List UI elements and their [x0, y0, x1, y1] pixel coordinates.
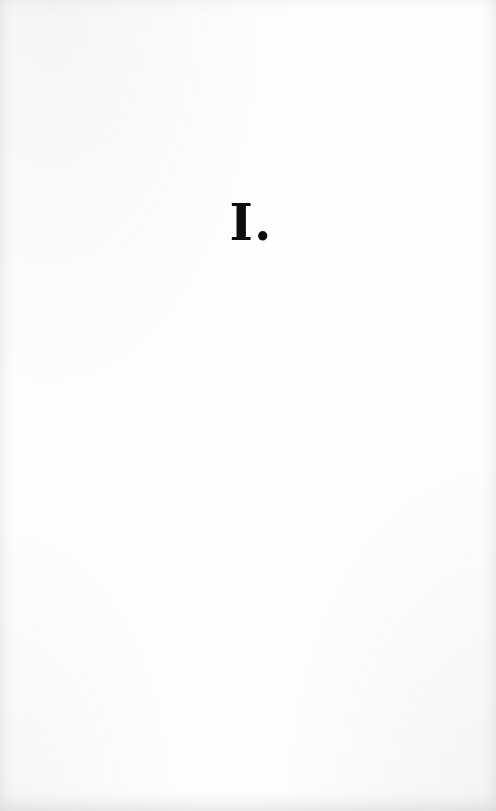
chapter-heading: I. [0, 193, 496, 253]
book-page: I. [0, 0, 496, 811]
